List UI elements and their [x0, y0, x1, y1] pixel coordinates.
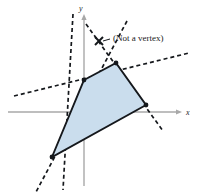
not-a-vertex-marker: [95, 37, 103, 45]
y-axis-label: y: [78, 4, 83, 13]
vertex-marker: [114, 61, 119, 66]
x-axis-arrowhead: [176, 109, 182, 114]
annotation-leader-line: [103, 39, 110, 41]
coordinate-plane-figure: x y (Not a vertex): [0, 0, 198, 196]
x-axis-label: x: [185, 108, 190, 117]
vertex-marker: [82, 78, 87, 83]
figure-container: x y (Not a vertex): [0, 0, 198, 196]
feasible-region-polygon: [52, 63, 146, 157]
not-a-vertex-label: (Not a vertex): [113, 33, 163, 43]
vertex-marker: [144, 103, 149, 108]
vertex-marker: [50, 155, 55, 160]
y-axis-arrowhead: [81, 14, 86, 20]
line-b: [63, 14, 73, 190]
